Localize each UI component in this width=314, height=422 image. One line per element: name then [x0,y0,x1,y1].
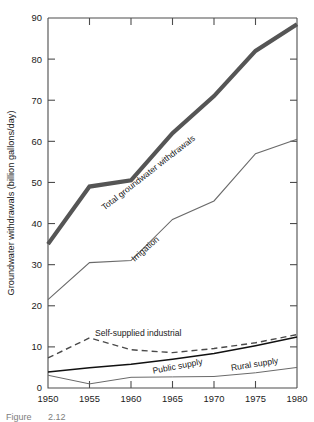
y-tick-label: 90 [32,12,42,23]
figure-caption: Figure 2.12 [6,412,66,422]
x-axis-ticks [90,381,256,388]
y-tick-label: 60 [32,136,42,147]
y-tick-label: 80 [32,54,42,65]
annotation-self-supplied-industrial: Self-supplied industrial [95,328,182,338]
y-tick-label: 0 [37,382,42,393]
x-tick-label: 1980 [287,393,308,404]
y-axis-ticks [48,59,55,347]
series-line-self-supplied-industrial [48,335,297,358]
series-line-total-groundwater-withdrawals [48,24,297,244]
x-tick-label: 1965 [162,393,183,404]
y-tick-label: 50 [32,177,42,188]
y-axis-tick-labels: 0102030405060708090 [32,12,42,393]
y-tick-label: 20 [32,300,42,311]
annotation-total-groundwater-withdrawals: Total groundwater withdrawals [100,133,197,212]
series-line-irrigation [48,139,297,299]
groundwater-withdrawals-line-chart: 0102030405060708090 19501955196019651970… [0,0,314,422]
annotation-irrigation: Irrigation [129,234,161,264]
x-tick-label: 1960 [121,393,142,404]
figure-caption-number: 2.12 [48,412,66,422]
x-tick-label: 1975 [245,393,266,404]
x-axis-ticks-top [90,18,256,25]
y-tick-label: 40 [32,218,42,229]
y-tick-label: 30 [32,259,42,270]
y-axis-ticks-right [290,59,297,347]
figure-container: 0102030405060708090 19501955196019651970… [0,0,314,422]
x-tick-label: 1950 [38,393,59,404]
x-tick-label: 1955 [79,393,100,404]
annotation-rural-supply: Rural supply [230,355,279,372]
x-tick-label: 1970 [204,393,225,404]
figure-caption-label: Figure [6,412,32,422]
y-tick-label: 70 [32,95,42,106]
x-axis-tick-labels: 1950195519601965197019751980 [38,393,308,404]
y-axis-title: Groundwater withdrawals (billion gallons… [6,111,16,296]
y-tick-label: 10 [32,341,42,352]
